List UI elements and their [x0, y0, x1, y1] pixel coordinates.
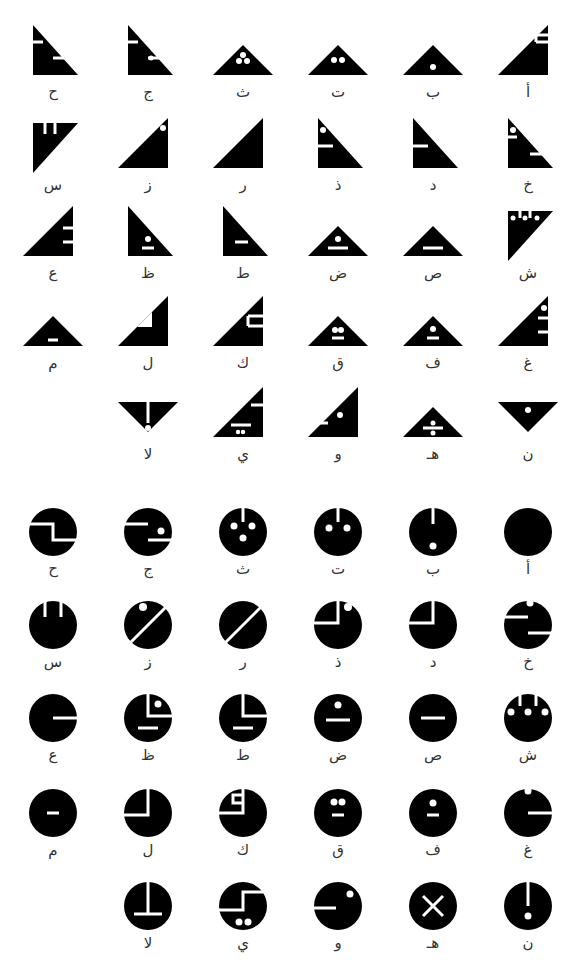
triangle-glyph-icon	[498, 387, 558, 447]
triangle-glyph-icon	[308, 206, 368, 266]
letter-label: ث	[203, 83, 283, 101]
triangle-glyph-icon	[403, 25, 463, 85]
triangle-glyph: ف	[393, 296, 473, 376]
circle-glyph-icon	[118, 502, 178, 562]
triangle-glyph: هـ	[393, 387, 473, 467]
triangle-glyph-icon	[498, 296, 558, 356]
circle-glyph: لا	[108, 876, 188, 956]
letter-label: و	[298, 445, 378, 463]
circle-glyph-icon	[403, 595, 463, 655]
letter-label: ن	[488, 934, 568, 952]
circle-glyph: ظ	[108, 688, 188, 768]
circle-glyph: ن	[488, 876, 568, 956]
triangle-glyph-icon	[23, 25, 83, 85]
circle-glyph: أ	[488, 502, 568, 582]
triangle-glyph: ق	[298, 296, 378, 376]
letter-label: ي	[203, 934, 283, 952]
triangle-glyph-icon	[308, 118, 368, 178]
triangle-glyph: لا	[108, 387, 188, 467]
triangle-glyph-icon	[308, 296, 368, 356]
triangle-glyph-icon	[308, 387, 368, 447]
triangle-glyph-icon	[23, 118, 83, 178]
letter-label: ص	[393, 746, 473, 764]
circle-glyph: ت	[298, 502, 378, 582]
letter-label: م	[13, 354, 93, 372]
triangle-glyph: ر	[203, 118, 283, 198]
circle-glyph-icon	[23, 595, 83, 655]
triangle-glyph: ن	[488, 387, 568, 467]
letter-label: ك	[203, 354, 283, 372]
triangle-glyph: ط	[203, 206, 283, 286]
triangle-glyph-icon	[118, 296, 178, 356]
triangle-glyph: س	[13, 118, 93, 198]
triangle-glyph: أ	[488, 25, 568, 105]
circle-glyph-icon	[118, 783, 178, 843]
letter-label: ج	[108, 560, 188, 578]
triangle-glyph-icon	[403, 206, 463, 266]
letter-label: ط	[203, 746, 283, 764]
letter-label: ص	[393, 264, 473, 282]
triangle-glyph: ض	[298, 206, 378, 286]
circle-glyph-icon	[403, 502, 463, 562]
triangle-glyph: د	[393, 118, 473, 198]
letter-label: ز	[108, 176, 188, 194]
letter-label: ق	[298, 354, 378, 372]
letter-label: ع	[13, 264, 93, 282]
circle-glyph: م	[13, 783, 93, 863]
circle-glyph-icon	[403, 876, 463, 936]
letter-label: ظ	[108, 746, 188, 764]
letter-label: ع	[13, 746, 93, 764]
triangle-glyph: خ	[488, 118, 568, 198]
triangle-glyph: ظ	[108, 206, 188, 286]
letter-label: ق	[298, 841, 378, 859]
triangle-glyph-icon	[118, 387, 178, 447]
triangle-glyph-icon	[213, 296, 273, 356]
triangle-glyph: ح	[13, 25, 93, 105]
triangle-glyph: غ	[488, 296, 568, 376]
circle-glyph-icon	[308, 783, 368, 843]
letter-label: ش	[488, 264, 568, 282]
letter-label: هـ	[393, 445, 473, 463]
triangle-glyph-icon	[213, 387, 273, 447]
letter-label: ل	[108, 354, 188, 372]
circle-glyph: هـ	[393, 876, 473, 956]
letter-label: س	[13, 653, 93, 671]
circle-glyph: د	[393, 595, 473, 675]
circle-glyph-icon	[23, 688, 83, 748]
circle-glyph-icon	[498, 876, 558, 936]
circle-glyph-icon	[308, 688, 368, 748]
circle-glyph-icon	[403, 688, 463, 748]
letter-label: ح	[13, 83, 93, 101]
triangle-glyph: ل	[108, 296, 188, 376]
triangle-glyph-icon	[213, 118, 273, 178]
triangle-glyph-icon	[403, 387, 463, 447]
letter-label: ط	[203, 264, 283, 282]
triangle-glyph-icon	[498, 206, 558, 266]
circle-glyph-icon	[308, 876, 368, 936]
letter-label: ت	[298, 83, 378, 101]
letter-label: ح	[13, 560, 93, 578]
letter-label: ض	[298, 746, 378, 764]
circle-glyph-icon	[213, 595, 273, 655]
letter-label: د	[393, 176, 473, 194]
letter-label: غ	[488, 354, 568, 372]
circle-glyph: ص	[393, 688, 473, 768]
circle-glyph-icon	[213, 783, 273, 843]
circle-glyph: ح	[13, 502, 93, 582]
letter-label: ض	[298, 264, 378, 282]
triangle-glyph-icon	[498, 25, 558, 85]
triangle-glyph-icon	[118, 118, 178, 178]
circle-glyph: ل	[108, 783, 188, 863]
circle-glyph: ك	[203, 783, 283, 863]
triangle-glyph: ع	[13, 206, 93, 286]
circle-glyph: ط	[203, 688, 283, 768]
triangle-glyph: و	[298, 387, 378, 467]
letter-label: غ	[488, 841, 568, 859]
circle-glyph: س	[13, 595, 93, 675]
letter-label: ج	[108, 83, 188, 101]
circle-glyph: ر	[203, 595, 283, 675]
circle-glyph-icon	[118, 876, 178, 936]
circle-glyph-icon	[403, 783, 463, 843]
circle-glyph: و	[298, 876, 378, 956]
circle-glyph-icon	[23, 502, 83, 562]
